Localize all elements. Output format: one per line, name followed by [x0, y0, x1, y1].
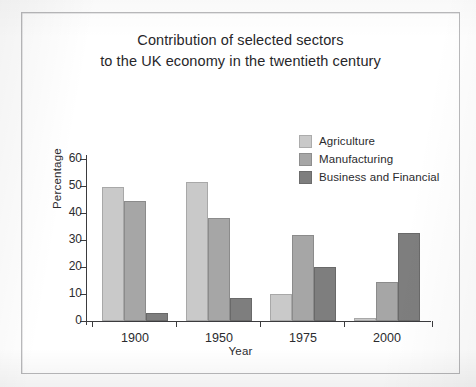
x-axis-line: [86, 321, 431, 322]
y-axis-tick-label: 30: [69, 232, 82, 246]
x-axis-tick-mark: [260, 321, 261, 327]
figure-frame: Contribution of selected sectors to the …: [21, 12, 460, 374]
legend-swatch-agriculture: [299, 135, 312, 148]
bar: [376, 282, 398, 321]
x-axis-tick-mark: [176, 321, 177, 327]
legend-label-business-and-financial: Business and Financial: [319, 171, 439, 183]
bar: [186, 182, 208, 321]
chart-legend: Agriculture Manufacturing Business and F…: [299, 133, 439, 187]
y-axis-tick-label: 20: [69, 259, 82, 273]
x-axis-tick-label: 1900: [121, 331, 149, 345]
bar: [146, 313, 168, 321]
legend-item-manufacturing: Manufacturing: [299, 151, 439, 167]
scanned-page: Contribution of selected sectors to the …: [0, 0, 476, 387]
bar: [398, 233, 420, 321]
y-axis-tick-label: 50: [69, 178, 82, 192]
bar: [208, 218, 230, 321]
x-axis-tick-mark: [344, 321, 345, 327]
y-axis-tick-label: 40: [69, 205, 82, 219]
x-axis-tick-label: 2000: [373, 331, 401, 345]
x-axis-title: Year: [22, 345, 459, 357]
chart-title: Contribution of selected sectors to the …: [22, 30, 459, 72]
x-axis-tick-mark: [432, 321, 433, 327]
bar: [314, 267, 336, 321]
y-axis-title: Percentage: [51, 148, 63, 209]
bar: [124, 201, 146, 321]
bar: [102, 187, 124, 321]
x-axis-tick-label: 1950: [205, 331, 233, 345]
x-axis-tick-label: 1975: [289, 331, 317, 345]
y-axis-line: [86, 155, 87, 325]
bar: [270, 294, 292, 321]
chart-title-line-2: to the UK economy in the twentieth centu…: [22, 51, 459, 72]
bar: [292, 235, 314, 321]
y-axis-tick-label: 60: [69, 151, 82, 165]
chart-title-line-1: Contribution of selected sectors: [22, 30, 459, 51]
legend-item-agriculture: Agriculture: [299, 133, 439, 149]
legend-swatch-manufacturing: [299, 153, 312, 166]
legend-label-agriculture: Agriculture: [319, 135, 375, 147]
legend-swatch-business-and-financial: [299, 171, 312, 184]
bar: [230, 298, 252, 321]
bar: [354, 318, 376, 321]
legend-label-manufacturing: Manufacturing: [319, 153, 393, 165]
legend-item-business-and-financial: Business and Financial: [299, 169, 439, 185]
y-axis-tick-label: 0: [75, 313, 82, 327]
y-axis-tick-label: 10: [69, 286, 82, 300]
x-axis-tick-mark: [92, 321, 93, 327]
